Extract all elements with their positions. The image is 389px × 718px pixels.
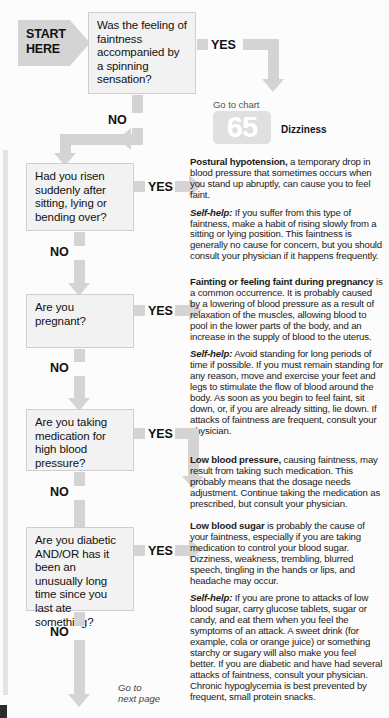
question-box-q4[interactable]: Are you taking medication for high blood…: [26, 409, 134, 471]
yes-stub-q5: [134, 545, 145, 556]
no-arrow-v2-q5: [74, 640, 85, 694]
yes-label-q1: YES: [211, 38, 236, 52]
yes-stub-q3: [134, 305, 145, 316]
no-label-q1: NO: [108, 113, 127, 127]
yes-label-q4: YES: [148, 427, 173, 441]
selfhelp-body-q5: If you are prone to attacks of low blood…: [190, 592, 382, 701]
answer-text-q5: Low blood sugar is probably the cause of…: [190, 521, 384, 703]
page-edge-rule: [3, 150, 8, 695]
start-here-pennant: START HERE: [18, 20, 90, 66]
answer-text-q4: Low blood pressure, causing faintness, m…: [190, 455, 384, 510]
no-arrow-v1-q1: [132, 95, 143, 113]
no-arrow-v3-q1: [60, 134, 71, 153]
no-arrowhead-q5: [68, 694, 90, 707]
no-arrow-v2-q2: [74, 260, 85, 283]
no-arrow-v1-q2: [74, 232, 85, 246]
answer-text-q2: Postural hypotension, a temporary drop i…: [190, 157, 384, 262]
selfhelp-label-q2: Self-help:: [190, 207, 232, 218]
next-page-label[interactable]: Go to next page: [118, 682, 160, 704]
yes-arrowhead-q1: [262, 79, 284, 92]
yes-stub-q2: [134, 181, 145, 192]
page-corner-mark: [0, 705, 7, 718]
no-arrow-v2-q4: [74, 500, 85, 530]
yes-arrow-h-q2: [175, 181, 189, 192]
no-arrow-v2-q3: [74, 376, 85, 398]
chart-number-badge[interactable]: 65: [213, 111, 271, 144]
flowchart-page: START HERE Was the feeling of faintness …: [0, 0, 389, 718]
no-label-q5: NO: [50, 625, 69, 639]
yes-arrow-h-q5: [175, 545, 189, 556]
selfhelp-label-q5: Self-help:: [190, 592, 232, 603]
yes-stub-q1: [197, 39, 208, 50]
answer-title-q3: Fainting or feeling faint during pregnan…: [190, 276, 373, 287]
selfhelp-label-q3: Self-help:: [190, 348, 232, 359]
no-arrow-v1-q4: [74, 472, 85, 486]
no-label-q4: NO: [50, 485, 69, 499]
no-label-q2: NO: [50, 245, 69, 259]
question-box-q1[interactable]: Was the feeling of faintness accompanied…: [88, 12, 196, 94]
yes-label-q2: YES: [148, 180, 173, 194]
yes-arrow-h-q3: [175, 305, 189, 316]
answer-title-q2: Postural hypotension,: [190, 156, 288, 167]
question-box-q5[interactable]: Are you diabetic AND/OR has it been an u…: [26, 527, 134, 611]
no-arrow-v1-q3: [74, 349, 85, 362]
selfhelp-body-q3: Avoid standing for long periods of time …: [190, 348, 383, 435]
yes-arrow-v-q1: [268, 39, 279, 79]
chart-name-label: Dizziness: [281, 124, 327, 135]
no-arrowhead-mid-q1: [118, 128, 131, 150]
question-box-q3[interactable]: Are you pregnant?: [26, 294, 134, 348]
no-label-q3: NO: [50, 361, 69, 375]
yes-stub-q4: [134, 428, 145, 439]
no-arrow-v1-q5: [74, 612, 85, 626]
goto-chart-label: Go to chart: [213, 99, 259, 110]
answer-text-q3: Fainting or feeling faint during pregnan…: [190, 277, 384, 437]
answer-title-q5: Low blood sugar: [190, 520, 265, 531]
answer-title-q4: Low blood pressure,: [190, 454, 281, 465]
yes-label-q5: YES: [148, 544, 173, 558]
yes-label-q3: YES: [148, 304, 173, 318]
question-box-q2[interactable]: Had you risen suddenly after sitting, ly…: [26, 163, 134, 231]
